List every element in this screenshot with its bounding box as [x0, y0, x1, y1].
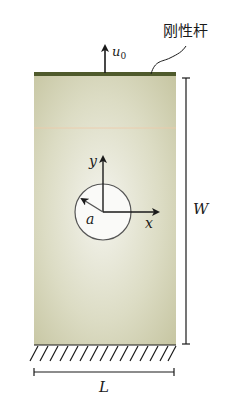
fixed-support-hatch — [30, 346, 176, 361]
height-label: W — [193, 200, 210, 218]
y-axis-label: y — [88, 153, 98, 169]
displacement-label: u0 — [112, 44, 126, 61]
width-dimension — [34, 368, 174, 376]
leader-line — [151, 46, 186, 74]
width-label: L — [98, 378, 109, 396]
radius-label: a — [86, 211, 94, 227]
height-dimension — [182, 78, 190, 344]
rigid-rod-label: 刚性杆 — [163, 22, 208, 40]
x-axis-label: x — [145, 215, 153, 231]
diagram: 刚性杆 u0 y x a W L — [0, 0, 244, 408]
